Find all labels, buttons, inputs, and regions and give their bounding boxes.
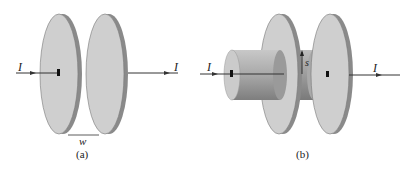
current-in-label-b: I [206,60,212,74]
right-plate-a [86,14,128,134]
caption-b: (b) [296,148,309,161]
arrow-in-a-icon [30,71,36,75]
right-plate-b [311,14,353,134]
figure-b: I I s (b) [200,14,400,161]
caption-a: (a) [76,148,89,161]
arrow-in-b-icon [212,72,218,76]
figure-a: I I w (a) [16,14,179,161]
current-out-label-b: I [372,61,378,75]
outer-cylinder-b [224,50,287,100]
radius-label: s [305,57,309,68]
current-out-label-a: I [173,60,179,74]
arrow-out-a-icon [164,71,170,75]
capacitor-diagram: I I w (a) [0,0,412,169]
wire-contact-b [230,70,233,77]
current-in-label-a: I [17,60,23,74]
wire-contact-a [57,69,60,76]
wire-contact-b-right [326,71,329,77]
left-plate-a [40,14,82,134]
gap-label: w [79,135,87,147]
